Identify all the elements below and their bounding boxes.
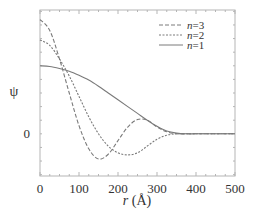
curve-n1	[40, 66, 235, 134]
legend: n=3 n=2 n=1	[159, 19, 205, 51]
x-tick-label: 100	[69, 181, 89, 196]
x-tick-label: 0	[37, 181, 44, 196]
x-tick-label: 500	[225, 181, 245, 196]
y-tick-label: 0	[24, 126, 31, 141]
legend-label: n=1	[187, 39, 204, 51]
y-axis-label: ψ	[10, 84, 19, 99]
x-axis-label-unit: (Å)	[128, 193, 151, 209]
x-tick-label: 400	[186, 181, 206, 196]
curves	[40, 20, 235, 160]
x-axis-label: r (Å)	[123, 193, 152, 209]
y-tick-labels: 0	[24, 126, 31, 141]
legend-item-n1: n=1	[159, 39, 204, 51]
curve-n3	[40, 20, 235, 160]
psi-vs-r-chart: 0100200300400500 0 ψ r (Å) n=3 n=2 n=1	[0, 0, 259, 222]
curve-n2	[40, 40, 235, 155]
